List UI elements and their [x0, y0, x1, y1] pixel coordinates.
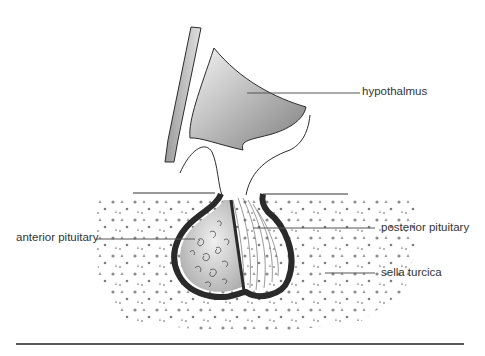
pituitary-diagram: hypothalmus anterior pituitary posterior…	[0, 0, 485, 356]
outer-left-strip	[165, 27, 201, 162]
hypothalamus-region	[190, 48, 306, 150]
label-posterior-pituitary: posterior pituitary	[381, 222, 469, 234]
label-hypothalmus: hypothalmus	[362, 86, 427, 98]
sella-turcica-bone	[95, 193, 418, 335]
label-anterior-pituitary: anterior pituitary	[16, 232, 98, 244]
label-sella-turcica: sella turcica	[381, 267, 442, 279]
